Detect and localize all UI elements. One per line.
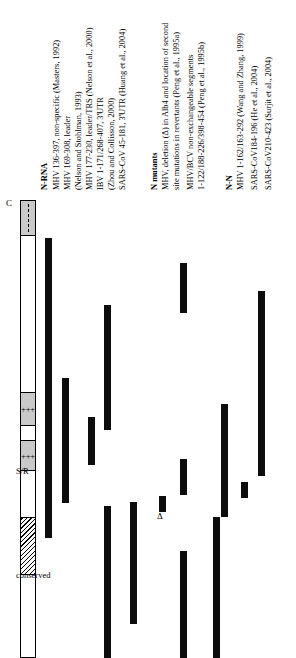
entry-mhv-177-230: MHV 177-230, leader/TRS (Nelson et al., …	[85, 28, 94, 190]
entry-zhou-collisson-citation: (Zhou and Collisson, 2000)	[107, 98, 116, 190]
entry-nelson-stohlman-citation: (Nelson and Stohlman, 1993)	[74, 91, 83, 190]
entry-mhv-bcv-nonexchangeable-line1: MHV/BCV non-exchangeable segments	[186, 55, 195, 190]
bar-mhv-bcv-398-454	[180, 263, 187, 313]
domain-schematic: +++ +++ N C conserved S/R	[20, 0, 36, 658]
entry-sars-cov-45-181: SARS-CoV 45-181, 3'UTR (Huang et al., 20…	[118, 29, 127, 190]
entry-mhv-169-308: MHV 169-308, leader	[63, 116, 72, 190]
section-header-n-rna: N-RNA	[40, 163, 49, 190]
bar-ibv-1-171	[104, 506, 111, 658]
basic-2-plus-caption: +++	[12, 402, 44, 416]
c-terminus-label: C	[6, 198, 12, 208]
entry-mhv-alb4-deletion-line1: MHV, deletion (Δ) in Alb4 and location o…	[161, 23, 170, 190]
delta-symbol: Δ	[157, 511, 163, 521]
entry-sars-cov-210-423: SARS-CoV210-423 (Surjit et al., 2004)	[264, 57, 273, 190]
domain-region-conserved	[20, 517, 36, 575]
region-label-sr: S/R	[16, 466, 29, 476]
bar-ibv-268-407	[104, 305, 111, 430]
entry-mhv-alb4-deletion-line2: site mutations in revertants (Peng et al…	[172, 32, 181, 190]
domain-region-c-terminal	[20, 200, 36, 236]
section-header-n-mutants: N mutants	[150, 153, 159, 190]
bar-mhv-136-397	[45, 238, 52, 538]
bar-mhv-alb4-deletion	[159, 496, 166, 512]
bar-mhv-bcv-1-122	[180, 551, 187, 658]
entry-sars-cov-184-196: SARS-CoV184-196 (He et al., 2004)	[250, 66, 259, 190]
entry-mhv-1-162-163-292: MHV 1-162/163-292 (Wang and Zhang, 1999)	[236, 33, 245, 190]
figure-canvas: +++ +++ N C conserved S/R Δ N-RNA MHV 13…	[0, 0, 296, 658]
region-label-conserved: conserved	[16, 570, 50, 580]
bar-sars-cov-210-423	[258, 291, 265, 476]
bar-mhv-163-292	[221, 404, 228, 517]
entry-mhv-bcv-nonexchangeable-line2: 1-122/188-226/398-454 (Peng et al., 1995…	[197, 42, 206, 190]
bar-sars-cov-45-181	[130, 502, 137, 624]
bar-mhv-177-230	[88, 417, 95, 465]
c-terminal-dashed-line	[28, 204, 29, 232]
bar-mhv-bcv-188-226	[180, 459, 187, 495]
domain-region-basic-2: +++	[20, 392, 36, 426]
bar-mhv-169-308	[62, 378, 69, 503]
bar-sars-cov-184-196	[241, 482, 248, 498]
entry-ibv-1-171-268-407: IBV 1-171/268-407, 3'UTR	[96, 97, 105, 190]
entry-mhv-136-397: MHV 136-397, non-specific (Masters, 1992…	[52, 40, 61, 190]
n-protein-outline	[20, 200, 36, 658]
section-header-n-n: N-N	[225, 175, 234, 190]
sr-plus-caption: +++	[14, 449, 43, 463]
bar-mhv-1-162	[213, 517, 220, 658]
